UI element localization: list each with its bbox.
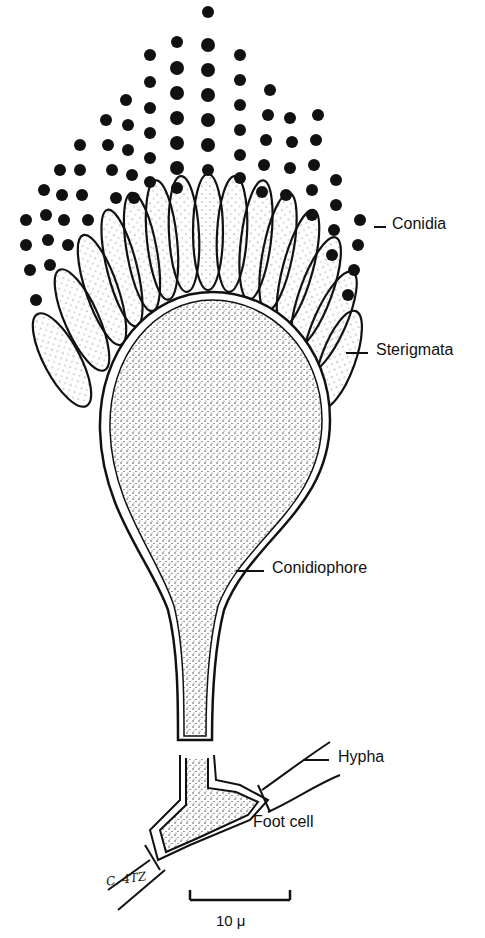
conidia-leader <box>374 226 386 228</box>
scale-bar <box>190 890 290 900</box>
label-conidia: Conidia <box>392 215 446 233</box>
label-foot-cell: Foot cell <box>253 813 313 831</box>
hypha-leader <box>303 759 329 761</box>
conidiophore-leader <box>236 570 264 572</box>
label-hypha: Hypha <box>338 748 384 766</box>
label-sterigmata: Sterigmata <box>376 341 453 359</box>
sterigmata-leader <box>346 352 368 354</box>
label-conidiophore: Conidiophore <box>272 559 367 577</box>
conidiophore-illustration <box>0 0 485 938</box>
scale-bar-label: 10 μ <box>216 912 246 929</box>
